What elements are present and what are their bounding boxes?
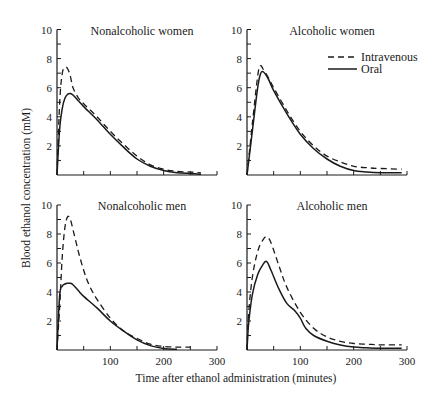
y-tick-label: 10	[41, 24, 53, 36]
oral-curve	[247, 261, 402, 350]
panel-nonalcoholic-men: 246810100200300Nonalcoholic men	[41, 199, 226, 367]
intravenous-curve	[57, 67, 201, 175]
y-tick-label: 6	[237, 82, 243, 94]
x-tick-label: 200	[345, 355, 362, 367]
panel-title: Nonalcoholic women	[91, 24, 194, 38]
y-tick-label: 6	[237, 257, 243, 269]
x-tick-label: 300	[209, 355, 226, 367]
y-tick-label: 2	[47, 140, 53, 152]
y-tick-label: 8	[47, 53, 53, 65]
oral-curve	[247, 71, 402, 175]
y-tick-label: 10	[231, 24, 243, 36]
y-tick-label: 6	[47, 82, 53, 94]
panel-title: Nonalcoholic men	[98, 199, 186, 213]
panels-layer: 246810Nonalcoholic women246810Alcoholic …	[41, 24, 416, 368]
x-tick-label: 100	[102, 355, 119, 367]
y-tick-label: 6	[47, 257, 53, 269]
panel-title: Alcoholic men	[297, 199, 368, 213]
y-tick-label: 10	[231, 199, 243, 211]
x-tick-label: 200	[155, 355, 172, 367]
y-tick-label: 8	[237, 53, 243, 65]
legend-oral-label: Oral	[361, 62, 383, 76]
intravenous-curve	[57, 216, 190, 350]
y-axis-label: Blood ethanol concentration (mM)	[20, 108, 33, 268]
panel-alcoholic-men: 246810100200300Alcoholic men	[231, 199, 416, 367]
y-tick-label: 4	[237, 111, 243, 123]
y-tick-label: 2	[237, 140, 243, 152]
intravenous-curve	[247, 237, 402, 350]
oral-curve	[57, 93, 201, 175]
y-tick-label: 4	[47, 286, 53, 298]
y-tick-label: 10	[41, 199, 53, 211]
x-tick-label: 100	[292, 355, 309, 367]
oral-curve	[57, 283, 177, 350]
legend: Intravenous Oral	[328, 50, 418, 76]
chart-canvas: 246810Nonalcoholic women246810Alcoholic …	[0, 0, 436, 395]
y-tick-label: 4	[237, 286, 243, 298]
y-tick-label: 8	[237, 228, 243, 240]
x-axis-label: Time after ethanol administration (minut…	[136, 372, 337, 385]
y-tick-label: 8	[47, 228, 53, 240]
panel-title: Alcoholic women	[289, 24, 375, 38]
panel-nonalcoholic-women: 246810Nonalcoholic women	[41, 24, 217, 176]
x-tick-label: 300	[399, 355, 416, 367]
figure: 246810Nonalcoholic women246810Alcoholic …	[0, 0, 436, 395]
y-tick-label: 2	[47, 315, 53, 327]
y-tick-label: 4	[47, 111, 53, 123]
y-tick-label: 2	[237, 315, 243, 327]
panel-alcoholic-women: 246810Alcoholic women	[231, 24, 407, 176]
